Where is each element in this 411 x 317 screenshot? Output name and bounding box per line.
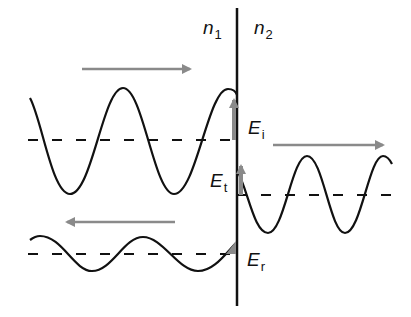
- reflected-field-subscript: r: [261, 259, 265, 274]
- transmitted-field-symbol: E: [210, 170, 223, 191]
- reflected-field-label: Er: [247, 250, 265, 269]
- reflected-field-vector: [226, 241, 236, 254]
- diagram-canvas: [0, 0, 411, 317]
- transmitted-field-subscript: t: [224, 180, 228, 195]
- medium-1-subscript: 1: [215, 27, 222, 42]
- transmitted-field-label: Et: [210, 171, 227, 190]
- medium-1-label: n1: [203, 18, 222, 37]
- incident-field-label: Ei: [248, 118, 265, 137]
- medium-2-subscript: 2: [266, 27, 273, 42]
- reflected-field-symbol: E: [247, 249, 260, 270]
- incident-field-subscript: i: [262, 127, 265, 142]
- medium-1-symbol: n: [203, 17, 214, 38]
- medium-2-label: n2: [254, 18, 273, 37]
- medium-2-symbol: n: [254, 17, 265, 38]
- incident-field-symbol: E: [248, 117, 261, 138]
